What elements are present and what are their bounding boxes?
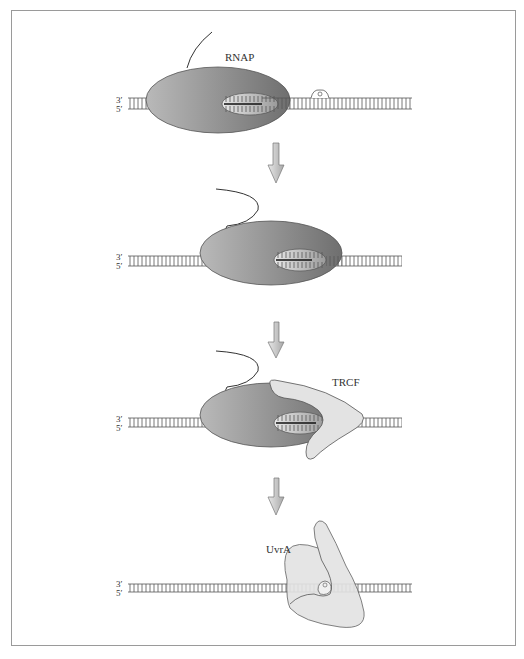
arrow-down-icon [268,322,284,358]
panel-1: 3′ 5′ RNAP [116,32,412,133]
dna-duplex [128,584,412,592]
arrow-down-icon [268,478,284,515]
strand-label-5prime: 5′ [116,423,123,433]
strand-label-5prime: 5′ [116,104,123,114]
panel-2: 3′ 5′ [116,189,402,285]
rna-transcript [187,32,212,68]
arrow-down-icon [268,143,284,183]
rnap-label: RNAP [225,51,254,63]
dna-lesion-icon [311,90,329,98]
strand-label-5prime: 5′ [116,261,123,271]
strand-label-5prime: 5′ [116,588,123,598]
uvra-label: UvrA [266,543,291,555]
panel-4: 3′ 5′ UvrA [116,521,412,628]
trcf-label: TRCF [332,376,360,388]
panel-3: 3′ 5′ TRCF [116,351,402,459]
uvra-shape [285,521,364,628]
pathway-diagram: 3′ 5′ RNAP 3′ 5′ [0,0,524,659]
